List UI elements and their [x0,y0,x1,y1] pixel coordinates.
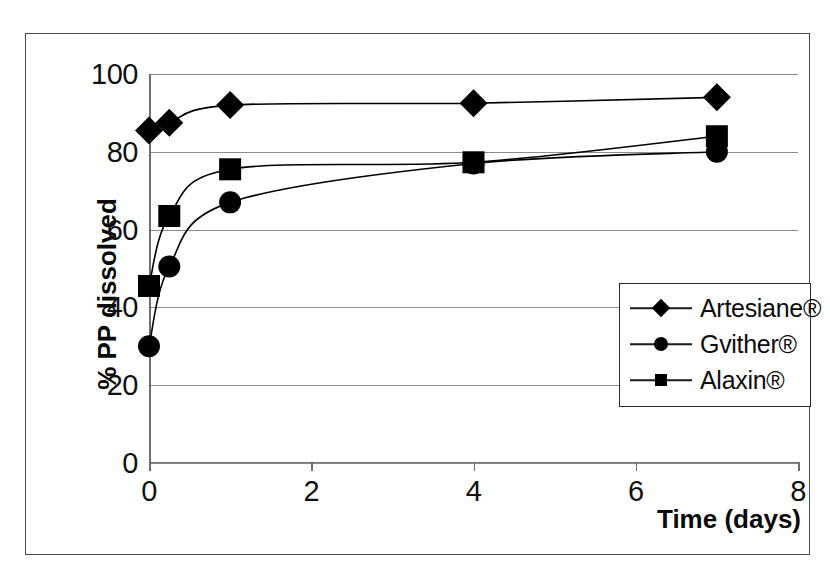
legend: Artesiane® Gvither® Alaxin® [619,283,811,407]
x-axis-tick [311,462,313,471]
data-point-square [706,125,728,147]
y-axis-tick-label: 0 [122,447,138,480]
y-axis-tick-label: 60 [107,213,138,246]
data-point-circle [138,335,160,357]
data-point-diamond [460,89,488,117]
x-axis-tick-label: 2 [303,475,319,508]
data-point-square [138,275,160,297]
x-axis-tick-label: 0 [141,475,157,508]
y-axis-title-wrap: % PP dissolved [0,34,58,554]
x-axis-tick [636,462,638,471]
data-point-circle [219,191,241,213]
legend-marker-square-icon [630,370,692,390]
x-axis-tick [798,462,800,471]
y-axis-tick-label: 80 [107,135,138,168]
legend-item-label: Artesiane® [700,294,821,323]
x-axis-tick-label: 6 [628,475,644,508]
legend-item[interactable]: Alaxin® [620,362,810,398]
y-axis-tick-label: 40 [107,291,138,324]
series-1 [135,83,731,144]
data-point-square [463,151,485,173]
data-point-square [219,158,241,180]
data-point-square [158,205,180,227]
data-point-diamond [216,91,244,119]
data-point-circle [158,256,180,278]
legend-marker-diamond-icon [630,298,692,318]
x-axis-tick-label: 4 [466,475,482,508]
legend-marker-circle-icon [630,334,692,354]
x-axis-tick [474,462,476,471]
legend-item-label: Alaxin® [700,366,784,395]
y-axis-tick-label: 20 [107,369,138,402]
data-point-diamond [703,83,731,111]
legend-item[interactable]: Artesiane® [620,290,810,326]
x-axis-tick [149,462,151,471]
y-axis-tick-label: 100 [91,58,138,91]
legend-item-label: Gvither® [700,330,797,359]
chart-figure: % PP dissolved 020406080100 02468 Artesi… [25,33,810,555]
plot-area: 020406080100 02468 Artesiane® Gvither® [149,74,798,463]
legend-item[interactable]: Gvither® [620,326,810,362]
x-axis-title: Time (days) [657,504,801,535]
